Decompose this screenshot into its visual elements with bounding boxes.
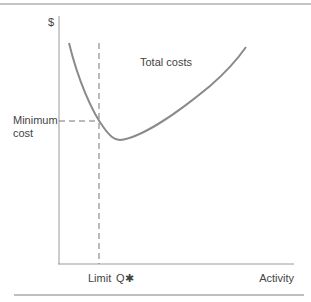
total-cost-diagram: $ Total costs Minimum cost Limit Q✱ Acti… — [0, 0, 311, 302]
min-cost-label-line2: cost — [13, 127, 33, 139]
x-axis-label: Activity — [259, 272, 294, 284]
q-star-label: Q✱ — [116, 272, 134, 284]
min-cost-label-line1: Minimum — [13, 114, 58, 126]
curve-label: Total costs — [140, 56, 192, 68]
limit-label: Limit — [88, 272, 111, 284]
y-axis-label: $ — [48, 16, 54, 28]
